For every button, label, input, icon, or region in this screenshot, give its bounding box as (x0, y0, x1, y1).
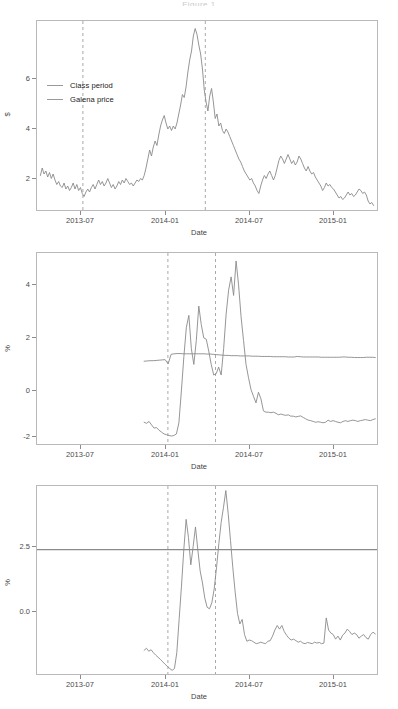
legend-label: Class period (70, 81, 113, 90)
x-tick-label: 2015-01 (319, 450, 347, 459)
y-tick-mark (32, 178, 36, 179)
x-tick-label: 2015-01 (319, 680, 347, 689)
gsadf-series-svg (37, 486, 377, 674)
x-tick-mark (80, 445, 81, 449)
y-axis-title: $ (3, 103, 12, 127)
x-tick-label: 2013-07 (66, 216, 94, 225)
x-tick-mark (333, 675, 334, 679)
y-axis-title: % (3, 571, 12, 595)
x-tick-label: 2014-01 (151, 680, 179, 689)
y-axis-title: % (3, 337, 12, 361)
legend-item: Class period (47, 78, 114, 92)
legend-swatch-class-period (47, 85, 63, 86)
panel-generalized-sup-adf: 2.5 0.0 % 2013-07 2014-01 2014-07 2015-0… (0, 480, 398, 709)
sadf-series-svg (37, 253, 377, 444)
plot-area-gsadf (36, 485, 378, 675)
x-tick-mark (333, 211, 334, 215)
y-tick-label: 4 (14, 280, 30, 289)
legend-price: Class period Galena price (47, 78, 114, 106)
y-tick-mark (32, 337, 36, 338)
x-axis-title: Date (0, 462, 398, 471)
y-tick-mark (32, 436, 36, 437)
panel-sup-adf: 4 2 0 -2 % 2013-07 2014-01 2014-07 2015-… (0, 240, 398, 480)
x-tick-label: 2013-07 (66, 680, 94, 689)
x-tick-label: 2013-07 (66, 450, 94, 459)
x-tick-mark (249, 445, 250, 449)
y-tick-label: 6 (16, 74, 30, 83)
y-tick-label: 2.5 (10, 542, 30, 551)
x-tick-label: 2014-01 (151, 216, 179, 225)
x-axis-title: Date (0, 228, 398, 237)
x-tick-mark (165, 211, 166, 215)
y-tick-mark (32, 611, 36, 612)
x-tick-mark (165, 675, 166, 679)
figure-root: Figure 1 6 4 2 $ 2013-07 2014-01 2014-07… (0, 0, 398, 709)
plot-area-sadf (36, 252, 378, 445)
x-tick-label: 2014-07 (235, 450, 263, 459)
x-tick-mark (249, 211, 250, 215)
x-axis-title: Date (0, 692, 398, 701)
y-tick-mark (32, 546, 36, 547)
y-tick-label: 2 (14, 333, 30, 342)
price-series-svg (37, 21, 377, 210)
y-tick-label: 2 (16, 174, 30, 183)
x-tick-mark (165, 445, 166, 449)
x-tick-label: 2014-07 (235, 680, 263, 689)
y-tick-label: 4 (16, 124, 30, 133)
legend-item: Galena price (47, 92, 114, 106)
y-tick-label: 0.0 (10, 607, 30, 616)
y-tick-mark (32, 284, 36, 285)
x-tick-label: 2014-01 (151, 450, 179, 459)
y-tick-mark (32, 390, 36, 391)
x-tick-mark (80, 675, 81, 679)
y-tick-mark (32, 78, 36, 79)
x-tick-label: 2015-01 (319, 216, 347, 225)
legend-swatch-galena-price (47, 99, 63, 100)
y-tick-label: -2 (14, 432, 30, 441)
y-tick-label: 0 (14, 386, 30, 395)
panel-galena-price: 6 4 2 $ 2013-07 2014-01 2014-07 2015-01 … (0, 6, 398, 240)
y-tick-mark (32, 128, 36, 129)
x-tick-mark (80, 211, 81, 215)
x-tick-mark (249, 675, 250, 679)
plot-area-price (36, 20, 378, 211)
x-tick-mark (333, 445, 334, 449)
legend-label: Galena price (70, 95, 114, 104)
x-tick-label: 2014-07 (235, 216, 263, 225)
